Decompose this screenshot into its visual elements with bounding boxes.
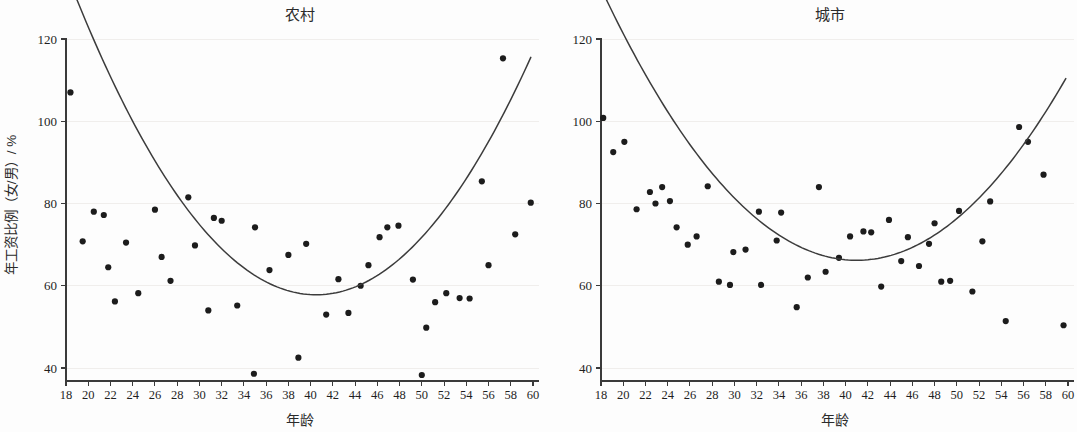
- xtick-label-50: 50: [416, 388, 429, 402]
- data-point: [252, 224, 258, 230]
- data-point: [600, 115, 606, 121]
- data-point: [926, 241, 932, 247]
- xtick-label-22: 22: [639, 388, 652, 402]
- data-point: [694, 233, 700, 239]
- data-point: [878, 283, 884, 289]
- data-point: [685, 242, 691, 248]
- data-point: [938, 279, 944, 285]
- ytick-label-40: 40: [44, 361, 57, 376]
- data-point: [716, 279, 722, 285]
- data-point: [167, 278, 173, 284]
- xtick-label-50: 50: [951, 388, 964, 402]
- data-point: [886, 217, 892, 223]
- data-point: [868, 229, 874, 235]
- data-point: [152, 207, 158, 213]
- data-point: [211, 215, 217, 221]
- ytick-label-60: 60: [44, 278, 57, 293]
- xtick-label-32: 32: [215, 388, 228, 402]
- xtick-label-56: 56: [1017, 388, 1030, 402]
- data-point: [410, 276, 416, 282]
- xtick-label-58: 58: [505, 388, 518, 402]
- data-point: [295, 355, 301, 361]
- xtick-label-40: 40: [304, 388, 317, 402]
- data-point: [528, 200, 534, 206]
- xtick-label-56: 56: [482, 388, 495, 402]
- ytick-label-120: 120: [573, 32, 593, 47]
- ytick-label-80: 80: [44, 196, 57, 211]
- data-point: [730, 249, 736, 255]
- panel-rural: 4060801001201820222426283032343638404244…: [0, 0, 540, 432]
- rural-axes: [61, 38, 539, 386]
- xtick-label-48: 48: [928, 388, 941, 402]
- data-point: [742, 246, 748, 252]
- urban-points: [600, 115, 1067, 328]
- data-point: [610, 149, 616, 155]
- urban-ticklabels: 4060801001201820222426283032343638404244…: [573, 32, 1075, 403]
- data-point: [266, 267, 272, 273]
- data-point: [112, 298, 118, 304]
- xtick-label-20: 20: [617, 388, 630, 402]
- xtick-label-20: 20: [82, 388, 95, 402]
- ytick-label-60: 60: [579, 278, 592, 293]
- data-point: [105, 264, 111, 270]
- data-point: [365, 262, 371, 268]
- data-point: [956, 208, 962, 214]
- xtick-label-24: 24: [661, 388, 674, 402]
- data-point: [384, 224, 390, 230]
- data-point: [633, 206, 639, 212]
- data-point: [1003, 318, 1009, 324]
- data-point: [947, 278, 953, 284]
- xtick-label-58: 58: [1040, 388, 1053, 402]
- data-point: [1016, 124, 1022, 130]
- xtick-label-34: 34: [238, 388, 251, 402]
- data-point: [500, 55, 506, 61]
- data-point: [323, 311, 329, 317]
- data-point: [860, 228, 866, 234]
- data-point: [756, 209, 762, 215]
- data-point: [987, 198, 993, 204]
- data-point: [979, 238, 985, 244]
- data-point: [916, 263, 922, 269]
- data-point: [135, 290, 141, 296]
- urban-x-axis-title: 年龄: [821, 412, 849, 428]
- data-point: [335, 276, 341, 282]
- data-point: [67, 89, 73, 95]
- xtick-label-30: 30: [728, 388, 741, 402]
- data-point: [101, 212, 107, 218]
- urban-gridlines: [601, 39, 1074, 368]
- data-point: [185, 194, 191, 200]
- data-point: [652, 200, 658, 206]
- data-point: [794, 304, 800, 310]
- urban-axes: [596, 38, 1074, 386]
- rural-fit-curve: [69, 0, 530, 295]
- data-point: [1040, 172, 1046, 178]
- data-point: [727, 282, 733, 288]
- ytick-label-40: 40: [579, 361, 592, 376]
- ytick-label-80: 80: [579, 196, 592, 211]
- xtick-label-54: 54: [995, 388, 1008, 402]
- xtick-label-52: 52: [438, 388, 451, 402]
- data-point: [467, 295, 473, 301]
- ytick-label-100: 100: [38, 114, 58, 129]
- data-point: [816, 184, 822, 190]
- rural-points: [67, 55, 534, 378]
- xtick-label-38: 38: [282, 388, 295, 402]
- data-point: [285, 252, 291, 258]
- xtick-label-36: 36: [795, 388, 808, 402]
- xtick-label-36: 36: [260, 388, 273, 402]
- data-point: [432, 299, 438, 305]
- data-point: [512, 231, 518, 237]
- xtick-label-40: 40: [839, 388, 852, 402]
- panel-urban: 4060801001201820222426283032343638404244…: [540, 0, 1077, 432]
- xtick-label-54: 54: [460, 388, 473, 402]
- data-point: [419, 372, 425, 378]
- data-point: [205, 307, 211, 313]
- data-point: [80, 238, 86, 244]
- xtick-label-18: 18: [595, 388, 608, 402]
- ytick-label-100: 100: [573, 114, 593, 129]
- xtick-label-38: 38: [817, 388, 830, 402]
- panel-urban-plot: 4060801001201820222426283032343638404244…: [540, 0, 1077, 432]
- data-point: [219, 218, 225, 224]
- xtick-label-48: 48: [393, 388, 406, 402]
- data-point: [192, 242, 198, 248]
